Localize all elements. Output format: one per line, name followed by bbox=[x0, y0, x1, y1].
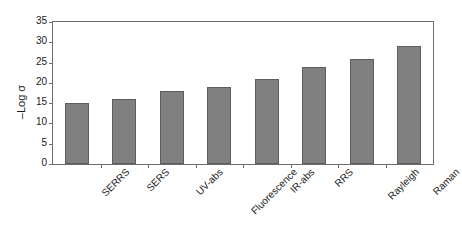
x-axis-tick-label: UV-abs bbox=[194, 167, 224, 197]
y-axis-tick-value: 10 bbox=[36, 117, 50, 127]
bar bbox=[255, 79, 279, 164]
x-axis-tick-label: Rayleigh bbox=[386, 167, 421, 202]
x-axis-tick-value: RRS bbox=[333, 167, 355, 189]
bar bbox=[350, 59, 374, 164]
y-axis-tick-mark bbox=[49, 164, 53, 165]
y-axis-tick-labels: 05101520253035 bbox=[28, 21, 50, 165]
y-axis-tick-mark bbox=[49, 83, 53, 84]
y-axis-tick-mark bbox=[49, 103, 53, 104]
x-axis-tick-label: Raman bbox=[432, 167, 462, 197]
bar-cell bbox=[243, 22, 291, 164]
y-axis-title-text: –Log σ bbox=[15, 85, 27, 119]
x-axis-tick-value: Rayleigh bbox=[386, 167, 421, 202]
y-axis-tick-value: 5 bbox=[41, 137, 50, 147]
x-axis-tick-value: SERS bbox=[145, 167, 171, 193]
y-axis-tick-value: 35 bbox=[36, 16, 50, 26]
bar-cell bbox=[386, 22, 434, 164]
bar-cell bbox=[338, 22, 386, 164]
bar-cell bbox=[101, 22, 149, 164]
x-axis-tick-labels: SERRSSERSUV-absFluorescenceIR-absRRSRayl… bbox=[52, 167, 434, 225]
y-axis-tick-value: 25 bbox=[36, 56, 50, 66]
bar-series bbox=[53, 22, 433, 164]
y-axis-title: –Log σ bbox=[14, 62, 28, 142]
x-axis-tick-value: Raman bbox=[432, 167, 462, 197]
bar bbox=[397, 46, 421, 164]
bar bbox=[112, 99, 136, 164]
bar-cell bbox=[53, 22, 101, 164]
bar-cell bbox=[291, 22, 339, 164]
bar bbox=[160, 91, 184, 164]
y-axis-tick-mark bbox=[49, 42, 53, 43]
bar bbox=[302, 67, 326, 164]
y-axis-tick-value: 0 bbox=[41, 158, 50, 168]
y-axis-tick-mark bbox=[49, 22, 53, 23]
bar-cell bbox=[196, 22, 244, 164]
x-axis-tick-label: RRS bbox=[333, 167, 355, 189]
bar-cell bbox=[148, 22, 196, 164]
x-axis-tick-value: SERRS bbox=[100, 167, 131, 198]
y-axis-tick-value: 30 bbox=[36, 36, 50, 46]
y-axis-tick-mark bbox=[49, 144, 53, 145]
x-axis-tick-value: UV-abs bbox=[194, 167, 224, 197]
x-axis-tick-label: SERRS bbox=[100, 167, 131, 198]
x-axis-tick-label: SERS bbox=[145, 167, 171, 193]
y-axis-tick-mark bbox=[49, 123, 53, 124]
bar bbox=[65, 103, 89, 164]
y-axis-tick-mark bbox=[49, 63, 53, 64]
bar bbox=[207, 87, 231, 164]
y-axis-tick-value: 20 bbox=[36, 76, 50, 86]
y-axis-tick-value: 15 bbox=[36, 97, 50, 107]
plot-area bbox=[52, 21, 434, 165]
